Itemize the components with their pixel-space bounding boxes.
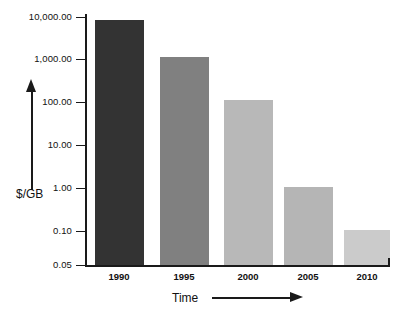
y-axis-title: $/GB bbox=[16, 187, 43, 201]
y-tick-label: 0.05 bbox=[53, 260, 72, 270]
y-tick-mark bbox=[76, 59, 85, 60]
storage-cost-bar-chart: 10,000.001,000.00100.0010.001.000.100.05… bbox=[0, 0, 398, 316]
x-axis-end-cap bbox=[388, 258, 390, 267]
x-tick-label-1990: 1990 bbox=[94, 271, 144, 282]
x-tick-label-2010: 2010 bbox=[342, 271, 392, 282]
x-tick-label-2005: 2005 bbox=[283, 271, 333, 282]
x-axis-title: Time bbox=[172, 291, 198, 305]
y-axis-line bbox=[85, 14, 87, 267]
y-tick-label: 0.10 bbox=[53, 226, 72, 236]
bar-2005 bbox=[284, 187, 333, 266]
x-tick-label-2000: 2000 bbox=[223, 271, 273, 282]
y-tick-mark bbox=[76, 17, 85, 18]
x-axis-line bbox=[85, 265, 390, 267]
y-axis-arrow-shaft bbox=[31, 90, 33, 190]
y-tick-mark bbox=[76, 145, 85, 146]
bar-1990 bbox=[95, 20, 144, 266]
y-tick-label: 1,000.00 bbox=[34, 54, 72, 64]
y-tick-mark bbox=[76, 231, 85, 232]
y-tick-mark bbox=[76, 265, 85, 266]
up-arrow-icon bbox=[26, 79, 36, 92]
x-axis-arrow-shaft bbox=[212, 297, 292, 299]
y-tick-label: 10,000.00 bbox=[29, 12, 72, 22]
bar-2000 bbox=[224, 100, 273, 266]
y-tick-label: 1.00 bbox=[53, 183, 72, 193]
y-tick-label: 10.00 bbox=[48, 140, 72, 150]
bar-2010 bbox=[344, 230, 390, 266]
right-arrow-icon bbox=[290, 292, 303, 302]
y-tick-mark bbox=[76, 188, 85, 189]
bar-1995 bbox=[160, 57, 209, 266]
y-tick-mark bbox=[76, 102, 85, 103]
y-tick-label: 100.00 bbox=[42, 97, 72, 107]
x-tick-label-1995: 1995 bbox=[159, 271, 209, 282]
